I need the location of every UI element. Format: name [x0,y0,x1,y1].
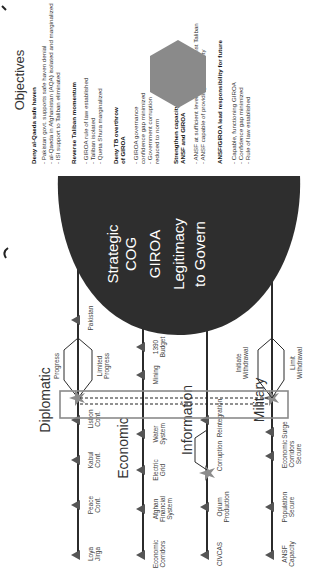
svg-text:Corruption: Corruption [216,440,224,471]
objective-item: - ISI support to Taliban eliminated [54,72,61,164]
marker-triangle-icon [265,502,274,512]
partial-header-shape [2,6,8,258]
cog-text-line: COG [122,237,139,271]
objective-heading: ANSF/GIROA lead responsibility for futur… [216,40,223,164]
marker-triangle-icon [200,502,209,512]
objectives-title: Objectives [12,49,27,110]
marker-triangle-icon [71,455,80,465]
svg-text:AfghanFinancialSystem: AfghanFinancialSystem [152,495,174,522]
svg-text:WaterSystem: WaterSystem [152,423,167,445]
objective-item: - Rule of law established [244,96,251,164]
center-of-gravity: Strategic COG GIROA Legitimacy to Govern [58,176,300,335]
cog-text-line: to Govern [191,221,208,287]
marker-triangle-icon [136,465,145,475]
loe-title-information: Information [179,385,195,455]
objective-item: reduced to norm [153,119,160,164]
objective-heading: ANSF and GIROA [179,112,186,164]
lines-of-effort-diagram: Diplomatic LoyaJirga PeaceConf. KabulCon… [0,0,331,576]
objective-item: - Capable, functioning GIROA [230,81,237,164]
svg-text:PopulationSecure: PopulationSecure [281,491,295,522]
marker-triangle-icon [136,429,145,439]
marker-triangle-icon [265,550,274,560]
cog-text-line: Legitimacy [170,218,187,290]
cog-text-line: GIROA [146,230,163,278]
cog-text-line: Strategic [104,224,121,284]
objective-item: - Confidence gap minimized [237,87,244,164]
marker-triangle-icon [200,550,209,560]
svg-text:InitiateWithdrawal: InitiateWithdrawal [235,346,249,379]
objective-item: - Taliban isolated [89,117,96,164]
marker-triangle-icon [136,504,145,514]
svg-text:PeaceConf.: PeaceConf. [87,495,101,514]
objective-item: - GIROA governance [132,106,139,164]
svg-text:Surge: Surge [281,421,289,439]
svg-text:ElectricGrid: ElectricGrid [152,459,166,481]
svg-text:LoyaJirga: LoyaJirga [87,547,102,561]
objective-item: - GIROA rule of law established [82,77,89,164]
svg-text:LimitWithdrawal: LimitWithdrawal [289,346,303,379]
objective-item: - Pakistan govt. supports safe haven den… [40,46,47,164]
objective-heading: Deny al-Qaeda safe haven [30,87,37,164]
objective-item: - al-Qaeda in Afghanistan (AQA) isolated… [47,3,54,164]
svg-text:ANSFCapacity: ANSFCapacity [281,541,296,567]
loe-title-military: Military [251,378,267,422]
objective-heading: Reverse Taliban momentum [70,81,77,164]
branch-limit-withdrawal [272,338,284,398]
branch-limited-progress [78,338,92,398]
objective-item: - Government corruption [146,96,153,164]
marker-triangle-icon [136,370,145,380]
marker-triangle-icon [200,415,209,425]
loe-title-economic: Economic [115,417,131,478]
svg-text:LisbonConf.: LisbonConf. [87,409,101,429]
branch-label-progress: Progress [53,352,61,379]
svg-text:OpiumProduction: OpiumProduction [216,491,230,522]
loe-title-diplomatic: Diplomatic [37,367,53,432]
svg-text:Pakistan: Pakistan [87,305,94,330]
branch-corruption [195,430,207,470]
marker-triangle-icon [71,315,80,325]
marker-triangle-icon [265,427,274,437]
objectives-panel: Objectives Deny al-Qaeda safe haven - Pa… [12,3,251,164]
objective-heading: Deny TB overthrow [112,107,119,164]
marker-triangle-icon [136,550,145,560]
svg-text:LimitedProgress: LimitedProgress [96,352,111,379]
svg-text:1390Budget: 1390Budget [152,337,167,358]
marker-triangle-icon [265,451,274,461]
svg-text:EconomicCorridors: EconomicCorridors [152,539,166,568]
objective-item: confidence gap minimized [139,92,146,164]
marker-triangle-icon [136,342,145,352]
marker-triangle-icon [71,415,80,425]
svg-text:CIVCAS: CIVCAS [216,541,223,566]
branch-progress [64,338,78,398]
marker-triangle-icon [71,550,80,560]
svg-text:EconomicCorridorsSecure: EconomicCorridorsSecure [281,439,302,468]
svg-text:KabulConf.: KabulConf. [87,451,101,468]
objective-heading: of GIROA [119,136,126,164]
svg-text:Mining: Mining [152,365,160,385]
marker-triangle-icon [71,500,80,510]
objective-item: - Queta Shura marginalized [96,88,103,164]
